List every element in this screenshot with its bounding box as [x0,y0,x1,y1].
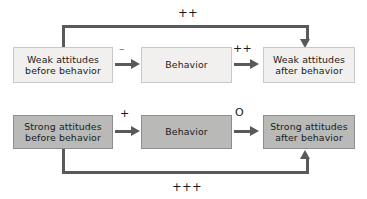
weak-edge-1-arrowhead [131,59,140,69]
node-weak-attitudes-before: Weak attitudes before behavior [13,47,113,83]
strong-edge-1-arrowhead [131,126,140,136]
weak-edge-2-arrowhead [250,59,259,69]
node-weak-behavior: Behavior [141,47,232,83]
node-strong-attitudes-after-label: Strong attitudes after behavior [268,121,349,143]
strong-feedback-riser [306,158,309,172]
node-weak-attitudes-after-label: Weak attitudes after behavior [271,54,347,76]
strong-feedback-arrowhead [300,150,310,159]
weak-feedback-label: ++ [178,6,198,20]
node-weak-attitudes-before-label: Weak attitudes before behavior [23,54,103,76]
node-weak-attitudes-after: Weak attitudes after behavior [263,47,355,83]
node-weak-behavior-label: Behavior [163,59,209,70]
node-strong-attitudes-before-label: Strong attitudes before behavior [22,121,103,143]
strong-edge-2-label: O [235,106,244,119]
node-strong-behavior: Behavior [141,115,232,149]
weak-edge-2-label: ++ [233,42,252,55]
weak-feedback-span [62,25,309,28]
attitude-behavior-diagram: ++ Weak attitudes before behavior – Beha… [0,0,367,199]
weak-edge-1-label: – [119,42,125,55]
weak-feedback-riser [62,25,65,49]
strong-feedback-span [62,171,309,174]
strong-edge-1-label: + [120,107,130,120]
node-strong-behavior-label: Behavior [163,126,209,137]
node-strong-attitudes-before: Strong attitudes before behavior [13,115,113,149]
strong-edge-2-arrowhead [250,126,259,136]
strong-feedback-label: +++ [172,180,202,194]
node-strong-attitudes-after: Strong attitudes after behavior [263,115,355,149]
